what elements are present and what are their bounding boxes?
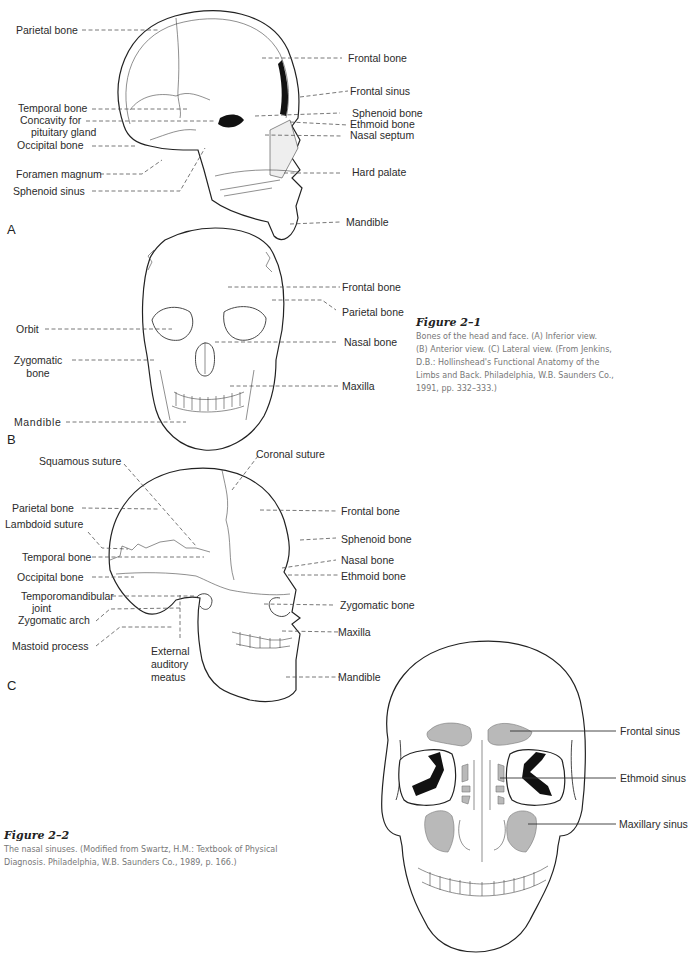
label-mandible: Mandible	[338, 671, 381, 683]
label-frontal-sinus: Frontal sinus	[350, 85, 410, 97]
label-hard-palate: Hard palate	[352, 166, 406, 178]
label-parietal-bone: Parietal bone	[342, 306, 404, 318]
label-occipital-bone: Occipital bone	[17, 139, 84, 151]
label-orbit: Orbit	[16, 323, 39, 335]
label-zygomatic: Zygomatic	[13, 354, 63, 366]
label-ethmoid-bone: Ethmoid bone	[341, 570, 406, 582]
label-foramen-magnum: Foramen magnum	[16, 168, 102, 180]
label-zygomatic-bone-2: bone	[13, 367, 63, 379]
figure-letter-b: B	[7, 432, 16, 447]
label-sphenoid-sinus: Sphenoid sinus	[13, 185, 85, 197]
label-joint: joint	[32, 602, 51, 614]
label-maxilla: Maxilla	[338, 626, 371, 638]
caption-line: (B) Anterior view. (C) Lateral view. (Fr…	[416, 344, 612, 357]
caption-line: 1991, pp. 332–333.)	[416, 383, 497, 396]
label-parietal-bone: Parietal bone	[12, 502, 74, 514]
label-temporal-bone: Temporal bone	[18, 102, 87, 114]
label-frontal-bone: Frontal bone	[348, 52, 407, 64]
label-parietal-bone: Parietal bone	[16, 24, 78, 36]
label-occipital-bone: Occipital bone	[17, 571, 84, 583]
label-frontal-bone: Frontal bone	[342, 281, 401, 293]
caption-line: Diagnosis. Philadelphia, W.B. Saunders C…	[4, 857, 237, 870]
skull-anterior-drawing	[143, 228, 284, 450]
label-zygomatic-bone: Zygomatic bone	[340, 599, 415, 611]
label-auditory: auditory	[151, 658, 188, 670]
label-external: External	[151, 645, 190, 657]
label-nasal-septum: Nasal septum	[350, 129, 414, 141]
label-pituitary-gland: pituitary gland	[31, 126, 96, 138]
label-ethmoid-sinus: Ethmoid sinus	[620, 772, 686, 784]
label-nasal-bone: Nasal bone	[344, 336, 397, 348]
label-squamous-suture: Squamous suture	[39, 455, 121, 467]
caption-line: Bones of the head and face. (A) Inferior…	[416, 331, 597, 344]
skull-sinuses-drawing	[382, 641, 586, 952]
label-sphenoid-bone: Sphenoid bone	[341, 533, 412, 545]
label-zygomatic-arch: Zygomatic arch	[18, 614, 90, 626]
caption-line: Limbs and Back. Philadelphia, W.B. Saund…	[416, 370, 614, 383]
label-concavity-for: Concavity for	[20, 114, 81, 126]
label-lambdoid-suture: Lambdoid suture	[5, 518, 83, 530]
label-mandible: Mandible	[346, 216, 389, 228]
label-nasal-bone: Nasal bone	[341, 554, 394, 566]
caption-line: D.B.: Hollinshead's Functional Anatomy o…	[416, 357, 599, 370]
label-maxilla: Maxilla	[342, 380, 375, 392]
label-temporomandibular: Temporomandibular	[21, 590, 114, 602]
label-meatus: meatus	[151, 671, 185, 683]
label-coronal-suture: Coronal suture	[256, 448, 325, 460]
label-mandible: Mandible	[14, 416, 61, 428]
label-frontal-bone: Frontal bone	[341, 505, 400, 517]
caption-title: Figure 2–1	[416, 316, 481, 329]
label-mastoid-process: Mastoid process	[12, 640, 88, 652]
caption-line: The nasal sinuses. (Modified from Swartz…	[4, 844, 277, 857]
figure-letter-c: C	[7, 678, 16, 693]
label-maxillary-sinus: Maxillary sinus	[619, 818, 688, 830]
anatomy-illustrations	[0, 0, 689, 956]
skull-sagittal-drawing	[118, 11, 302, 240]
label-temporal-bone: Temporal bone	[22, 551, 91, 563]
caption-title: Figure 2–2	[4, 829, 69, 842]
figure-letter-a: A	[7, 222, 16, 237]
label-frontal-sinus: Frontal sinus	[620, 725, 680, 737]
skull-lateral-drawing	[109, 468, 300, 701]
